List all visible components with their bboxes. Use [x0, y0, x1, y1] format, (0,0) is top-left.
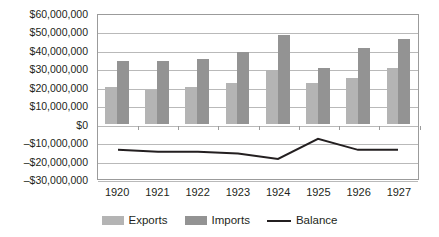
x-axis-label-1921: 1921: [145, 186, 169, 199]
chart-legend: ExportsImportsBalance: [0, 210, 439, 230]
x-axis-label-1920: 1920: [105, 186, 129, 199]
x-axis-label-1924: 1924: [266, 186, 290, 199]
y-axis-tick-label: $40,000,000: [30, 45, 88, 56]
x-axis-tick: [420, 126, 421, 130]
y-axis-tick-label: –$30,000,000: [24, 175, 88, 186]
legend-label: Exports: [129, 214, 168, 227]
legend-swatch-balance-icon: [267, 216, 291, 225]
legend-item-exports[interactable]: Exports: [102, 214, 168, 227]
x-axis-labels: 19201921192219231924192519261927: [97, 186, 419, 204]
y-axis-labels: $60,000,000$50,000,000$40,000,000$30,000…: [0, 14, 95, 180]
gridline: [98, 181, 418, 182]
x-axis-label-1923: 1923: [226, 186, 250, 199]
x-axis-label-1922: 1922: [185, 186, 209, 199]
balance-line: [118, 139, 398, 159]
balance-line-layer: [98, 15, 418, 179]
y-axis-tick-label: $60,000,000: [30, 9, 88, 20]
y-axis-tick-label: $10,000,000: [30, 101, 88, 112]
y-axis-tick-label: $50,000,000: [30, 27, 88, 38]
y-axis-tick-label: $0: [76, 119, 88, 130]
x-axis-label-1927: 1927: [387, 186, 411, 199]
legend-swatch-imports-icon: [185, 216, 207, 225]
legend-swatch-exports-icon: [102, 216, 124, 225]
legend-label: Balance: [296, 214, 338, 227]
y-axis-tick-label: $30,000,000: [30, 64, 88, 75]
legend-label: Imports: [212, 214, 250, 227]
legend-item-balance[interactable]: Balance: [267, 214, 338, 227]
plot-area: [97, 14, 419, 180]
x-axis-label-1925: 1925: [306, 186, 330, 199]
legend-item-imports[interactable]: Imports: [185, 214, 250, 227]
y-axis-tick-label: $20,000,000: [30, 82, 88, 93]
y-axis-tick-label: –$10,000,000: [24, 138, 88, 149]
chart-container: $60,000,000$50,000,000$40,000,000$30,000…: [0, 0, 439, 237]
y-axis-tick-label: –$20,000,000: [24, 156, 88, 167]
x-axis-label-1926: 1926: [346, 186, 370, 199]
